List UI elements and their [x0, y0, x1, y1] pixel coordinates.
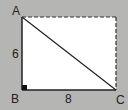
vertex-label-a: A [12, 4, 20, 18]
triangle-diagram: A B C 6 8 [0, 0, 128, 110]
right-angle-marker-icon [22, 85, 27, 90]
vertex-label-c: C [116, 93, 125, 107]
diagram-canvas: A B C 6 8 [0, 0, 128, 110]
side-ab-length: 6 [12, 47, 19, 61]
side-bc-length: 8 [65, 92, 72, 106]
vertex-label-b: B [11, 92, 19, 106]
